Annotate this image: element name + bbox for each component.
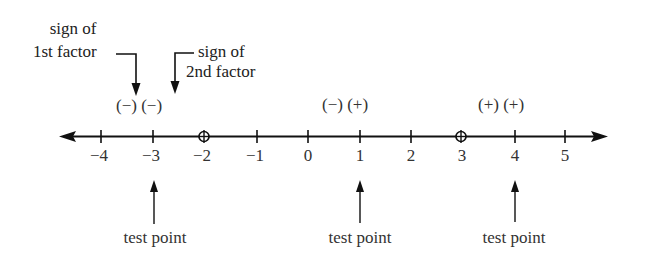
tick-label: −3 <box>142 146 160 166</box>
first-factor-label-line2: 1st factor <box>33 43 97 61</box>
tick-label: −2 <box>193 146 211 166</box>
tick-label: 0 <box>304 146 313 166</box>
tick-label: −4 <box>90 146 108 166</box>
test-point-label: test point <box>483 228 546 248</box>
interval-sign-label: (−) (+) <box>322 95 368 115</box>
tick-label: −1 <box>246 146 264 166</box>
test-point-arrow-icon-neg3 <box>150 180 158 224</box>
tick-label: 1 <box>356 146 365 166</box>
number-line-diagram <box>0 0 646 265</box>
first-factor-label-line1: sign of <box>50 20 97 38</box>
interval-sign-label: (+) (+) <box>478 95 524 115</box>
tick-label: 5 <box>561 146 570 166</box>
tick-label: 3 <box>458 146 467 166</box>
interval-sign-label: (−) (−) <box>116 96 162 116</box>
test-point-label: test point <box>124 228 187 248</box>
test-point-arrow-icon-1 <box>356 180 364 223</box>
second-factor-label-line1: sign of <box>198 43 245 61</box>
test-point-arrow-icon-4 <box>511 180 519 222</box>
open-circle-icon-3 <box>455 130 467 143</box>
tick-label: 2 <box>407 146 416 166</box>
test-point-label: test point <box>329 228 392 248</box>
first-factor-pointer-arrow-icon <box>116 54 141 96</box>
open-circle-icon-neg2 <box>198 130 210 143</box>
second-factor-label-line2: 2nd factor <box>186 63 255 81</box>
tick-label: 4 <box>511 146 520 166</box>
